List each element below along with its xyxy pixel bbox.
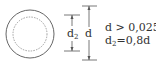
inner-diameter-sub: 2 — [74, 33, 78, 41]
formula-line-2: d2=0,8d — [105, 35, 150, 50]
outer-diameter-label: d — [85, 28, 92, 40]
formula-line-1: d > 0,025L — [105, 22, 156, 34]
inner-dashed-circle — [13, 17, 47, 51]
outer-diameter-base: d — [85, 27, 92, 40]
inner-diameter-base: d — [67, 27, 74, 40]
formula-1-text: d > 0,025L — [105, 21, 156, 34]
formula-2-rest: =0,8d — [117, 34, 151, 47]
formula-2-base: d — [105, 34, 112, 47]
inner-diameter-label: d2 — [67, 28, 79, 43]
